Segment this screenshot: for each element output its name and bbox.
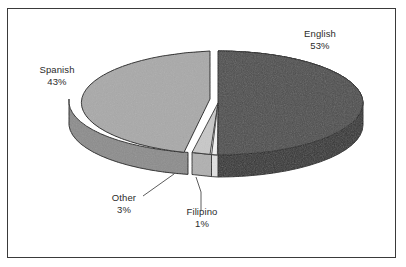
- slice-label-other-name: Other: [104, 192, 144, 204]
- slice-label-spanish-name: Spanish: [24, 64, 90, 76]
- chart-canvas: English 53% Spanish 43% Other 3% Filipin…: [0, 0, 406, 267]
- slice-label-filipino: Filipino 1%: [176, 206, 228, 229]
- slice-label-other: Other 3%: [104, 192, 144, 215]
- slice-label-filipino-value: 1%: [176, 218, 228, 230]
- slice-label-spanish: Spanish 43%: [24, 64, 90, 87]
- slice-label-other-value: 3%: [104, 204, 144, 216]
- slice-label-filipino-name: Filipino: [176, 206, 228, 218]
- slice-label-english-value: 53%: [289, 40, 351, 52]
- slice-label-english-name: English: [289, 28, 351, 40]
- slice-wall-other: [192, 153, 212, 177]
- slice-wall-filipino: [212, 155, 219, 177]
- slice-label-spanish-value: 43%: [24, 76, 90, 88]
- leader-line-other: [143, 174, 174, 196]
- slice-label-english: English 53%: [289, 28, 351, 51]
